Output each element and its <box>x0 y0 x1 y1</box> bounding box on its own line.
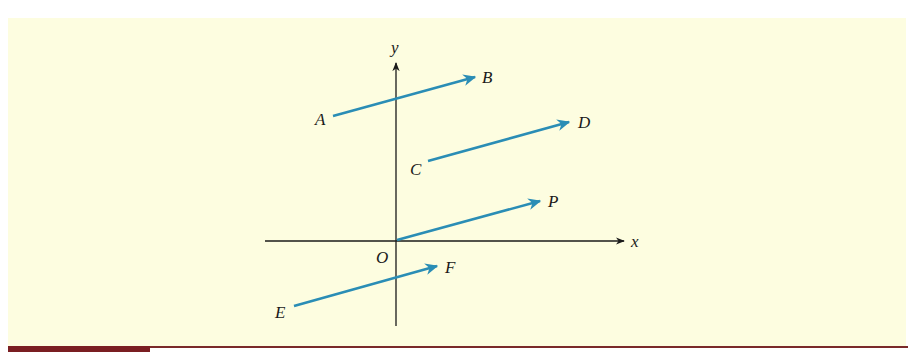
point-p-label: P <box>547 192 558 211</box>
vector-ef: E F <box>274 258 456 322</box>
x-axis-label: x <box>630 232 639 251</box>
vector-op: P <box>397 192 558 240</box>
point-c-label: C <box>410 160 422 179</box>
vector-diagram: x y O A B C D P E F <box>0 0 918 352</box>
y-axis-label: y <box>389 38 399 57</box>
vector-ab: A B <box>314 68 493 129</box>
point-e-label: E <box>274 303 286 322</box>
point-d-label: D <box>577 113 591 132</box>
origin-label: O <box>376 248 388 267</box>
vector-ab-arrow <box>333 77 475 116</box>
point-f-label: F <box>444 258 456 277</box>
point-b-label: B <box>482 68 493 87</box>
vector-cd: C D <box>410 113 591 179</box>
vector-ef-arrow <box>294 266 437 306</box>
vector-op-arrow <box>397 201 540 240</box>
point-a-label: A <box>314 110 326 129</box>
coordinate-axes: x y O <box>265 38 639 326</box>
vector-cd-arrow <box>428 122 569 161</box>
